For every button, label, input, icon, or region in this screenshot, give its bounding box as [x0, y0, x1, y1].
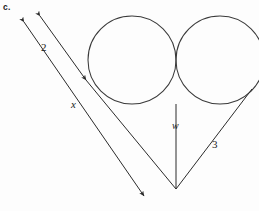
- label-side-three: 3: [212, 139, 218, 150]
- label-side-two: 2: [41, 42, 47, 53]
- left-circle: [88, 16, 176, 104]
- figure-canvas: [0, 0, 259, 211]
- left-v-branch: [86, 80, 176, 189]
- label-side-x: x: [71, 99, 76, 110]
- right-circle: [176, 16, 259, 104]
- segment-2-line: [40, 16, 86, 80]
- label-height-w: w: [172, 121, 179, 131]
- part-label: c.: [3, 3, 11, 12]
- geometry-figure: c. 2 x w 3: [0, 0, 259, 211]
